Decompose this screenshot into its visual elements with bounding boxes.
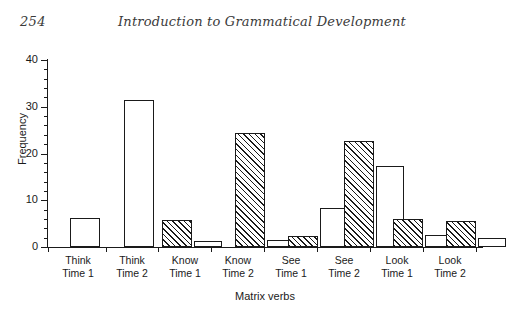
x-axis-tick	[48, 247, 49, 252]
x-axis-tick-label: LookTime 2	[418, 254, 482, 280]
x-axis-title: Matrix verbs	[48, 290, 482, 302]
bar	[344, 141, 374, 247]
bar	[446, 221, 476, 247]
x-axis-tick	[317, 247, 318, 252]
x-axis-tick	[106, 247, 107, 252]
bar	[288, 236, 318, 247]
x-axis-tick	[211, 247, 212, 252]
bar	[162, 220, 192, 247]
bar	[194, 241, 222, 247]
y-axis-major-tick	[41, 107, 48, 108]
x-axis-tick	[476, 247, 477, 252]
y-axis-tick-label: 20	[8, 148, 38, 159]
x-axis-tick-label-line: Time 2	[418, 267, 482, 280]
x-axis-tick-label-line: Look	[418, 254, 482, 267]
page-number: 254	[20, 14, 46, 29]
x-axis-tick	[423, 247, 424, 252]
y-axis-tick-label: 30	[8, 101, 38, 112]
bar	[124, 100, 154, 247]
bar-chart-figure: Frequency 010203040 ThinkTime 1ThinkTime…	[0, 38, 494, 312]
x-axis-tick	[370, 247, 371, 252]
bar	[70, 218, 100, 247]
x-axis-tick	[158, 247, 159, 252]
y-axis-tick-label: 0	[8, 241, 38, 252]
bar	[393, 219, 423, 247]
page-running-head: 254 Introduction to Grammatical Developm…	[0, 0, 494, 38]
y-axis-major-tick	[41, 200, 48, 201]
y-axis-tick-label: 10	[8, 194, 38, 205]
x-axis-line	[47, 247, 483, 248]
y-axis-tick-label: 40	[8, 54, 38, 65]
y-axis-major-tick	[41, 154, 48, 155]
y-axis-major-tick	[41, 60, 48, 61]
bar	[235, 133, 265, 247]
y-axis-major-tick	[41, 247, 48, 248]
bars-layer	[48, 60, 482, 247]
bar	[478, 238, 506, 247]
running-title: Introduction to Grammatical Development	[118, 14, 406, 29]
x-axis-tick	[264, 247, 265, 252]
x-axis-tick-labels: ThinkTime 1ThinkTime 2KnowTime 1KnowTime…	[48, 254, 482, 288]
y-axis-tick-labels: 010203040	[0, 38, 38, 270]
